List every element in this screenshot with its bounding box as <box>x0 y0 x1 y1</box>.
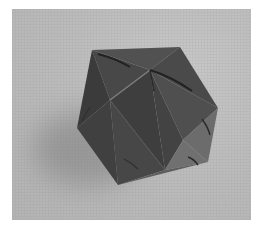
photo <box>12 9 251 220</box>
origami-icosahedron <box>12 9 251 220</box>
